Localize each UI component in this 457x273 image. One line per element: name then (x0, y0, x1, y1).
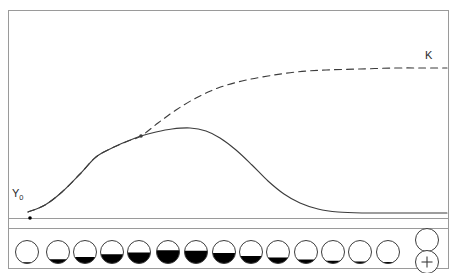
figure-frame (9, 11, 449, 269)
circle-fill-level (185, 251, 208, 264)
outer-frame-border (9, 11, 449, 269)
fill-indicator-circle (377, 241, 400, 264)
circle-fill-level (128, 252, 151, 263)
fill-indicator-circle (157, 241, 180, 264)
circle-fill-level (213, 253, 236, 264)
branch-point-marker (139, 134, 143, 138)
growth-curve-figure: K Y0 (0, 0, 457, 273)
fill-indicator-circle (185, 241, 208, 264)
y0-subscript: 0 (19, 193, 23, 202)
baseline-axis (8, 216, 448, 220)
fill-indicator-circle (101, 241, 124, 264)
origin-point-marker (28, 216, 32, 220)
fill-indicator-circle (74, 241, 97, 264)
curve-y0 (28, 128, 447, 213)
fill-indicator-circle (128, 241, 151, 264)
legend-empty-circle (416, 229, 439, 252)
fill-indicator-circle (240, 241, 263, 264)
asymptote-label-k: K (425, 50, 432, 61)
fill-indicator-circle (295, 241, 318, 264)
curve-group (28, 68, 447, 213)
fill-indicator-circle (322, 241, 345, 264)
fill-indicator-circle (213, 241, 236, 264)
circle-panel (9, 229, 449, 273)
fill-indicator-circle (47, 241, 70, 264)
fill-indicator-circle (267, 241, 290, 264)
circle-fill-level (101, 254, 124, 263)
fill-indicator-circle (349, 241, 372, 264)
figure-canvas (0, 0, 457, 273)
initial-value-label-y0: Y0 (12, 188, 24, 202)
circle-fill-level (75, 257, 96, 263)
circle-fill-level (157, 250, 180, 263)
fill-indicator-circle (16, 241, 39, 264)
circle-fill-level (240, 256, 262, 264)
curve-k (28, 68, 447, 212)
